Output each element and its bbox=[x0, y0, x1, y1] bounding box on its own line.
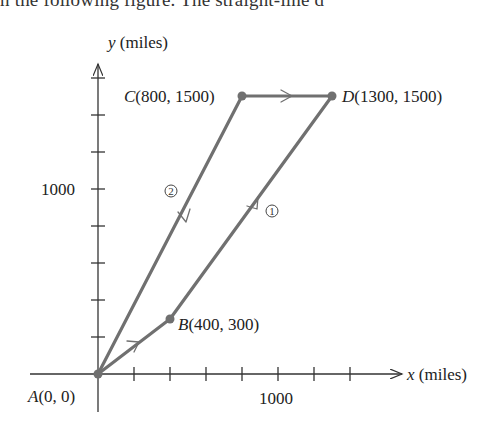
x-axis-label: x (miles) bbox=[406, 365, 467, 384]
route-diagram: y (miles) x (miles) 1000 1000 A(0, 0) B(… bbox=[0, 0, 504, 435]
x-axis bbox=[30, 367, 402, 381]
point-b-label: B(400, 300) bbox=[178, 315, 259, 334]
y-tick-label-1000: 1000 bbox=[41, 180, 75, 199]
point-b-marker bbox=[166, 315, 175, 324]
point-c-marker bbox=[238, 92, 247, 101]
x-tick-label-1000: 1000 bbox=[259, 389, 293, 408]
point-a-marker bbox=[94, 370, 103, 379]
points bbox=[94, 92, 337, 379]
svg-text:1: 1 bbox=[269, 205, 275, 217]
y-axis bbox=[91, 64, 105, 412]
route-1-badge: 1 bbox=[266, 205, 278, 217]
point-d-label: D(1300, 1500) bbox=[341, 87, 442, 106]
point-d-marker bbox=[328, 92, 337, 101]
route-2-badge: 2 bbox=[165, 185, 177, 197]
y-axis-label: y (miles) bbox=[106, 33, 168, 52]
point-c-label: C(800, 1500) bbox=[124, 87, 215, 106]
point-a-label: A(0, 0) bbox=[27, 387, 75, 406]
svg-text:2: 2 bbox=[168, 185, 174, 197]
